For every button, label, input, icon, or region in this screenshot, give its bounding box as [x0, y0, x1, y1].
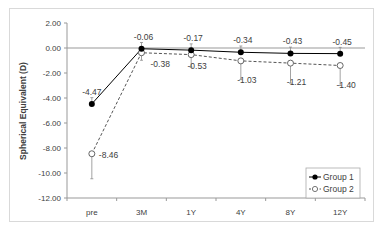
- data-label-group-2: -0.38: [151, 59, 171, 69]
- y-tick-label: -10.00: [38, 169, 61, 178]
- marker-group-1: [188, 47, 194, 53]
- data-label-group-2: -1.21: [287, 77, 307, 87]
- x-tick-label: pre: [86, 208, 98, 217]
- marker-group-1: [238, 49, 244, 55]
- x-tick-label: 1Y: [186, 208, 196, 217]
- data-label-group-2: -1.40: [336, 80, 356, 90]
- marker-group-2: [238, 58, 244, 64]
- marker-group-1: [337, 51, 343, 57]
- y-axis-title: Spherical Equivalent (D): [18, 62, 28, 160]
- marker-group-1: [89, 101, 95, 107]
- y-tick-label: -6.00: [43, 119, 62, 128]
- marker-group-2: [89, 151, 95, 157]
- y-tick-label: -12.00: [38, 194, 61, 203]
- y-tick-label: -8.00: [43, 144, 62, 153]
- legend-marker-group-1: [312, 174, 317, 179]
- marker-group-1: [288, 50, 294, 56]
- x-tick-label: 4Y: [236, 208, 246, 217]
- y-tick-label: -2.00: [43, 69, 62, 78]
- y-tick-label: -4.00: [43, 94, 62, 103]
- legend-marker-group-2: [312, 186, 317, 191]
- data-label-group-2: -8.46: [99, 150, 119, 160]
- x-tick-label: 8Y: [286, 208, 296, 217]
- marker-group-2: [337, 63, 343, 69]
- data-label-group-1: -0.34: [233, 35, 253, 45]
- data-label-group-1: -4.47: [82, 87, 102, 97]
- data-label-group-1: -0.45: [332, 37, 352, 47]
- legend-label-group-1: Group 1: [323, 172, 354, 182]
- line-chart: 2.000.00-2.00-4.00-6.00-8.00-10.00-12.00…: [0, 0, 380, 232]
- data-label-group-1: -0.17: [183, 33, 203, 43]
- y-tick-label: 2.00: [45, 19, 61, 28]
- y-tick-label: 0.00: [45, 44, 61, 53]
- marker-group-1: [139, 46, 145, 52]
- marker-group-2: [288, 60, 294, 66]
- x-tick-label: 3M: [136, 208, 147, 217]
- data-label-group-1: -0.06: [134, 32, 154, 42]
- legend-label-group-2: Group 2: [323, 184, 354, 194]
- data-label-group-2: -1.03: [237, 75, 257, 85]
- data-label-group-2: -0.53: [187, 61, 207, 71]
- x-tick-label: 12Y: [333, 208, 348, 217]
- data-label-group-1: -0.43: [283, 36, 303, 46]
